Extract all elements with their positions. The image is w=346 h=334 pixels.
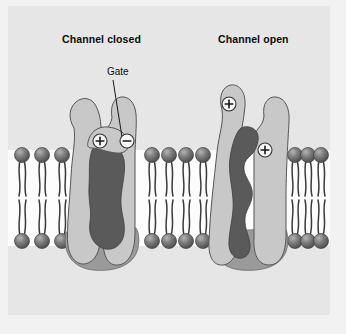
lipid-head	[179, 234, 194, 249]
label-gate: Gate	[107, 66, 129, 77]
lipid-head	[15, 148, 30, 163]
lipid-head	[55, 148, 70, 163]
lipid-head	[196, 234, 211, 249]
positive-charge-open-upper	[222, 97, 236, 111]
open-channel-subunit-right	[254, 97, 289, 265]
lipid-head	[145, 234, 160, 249]
ion-channel-diagram	[0, 0, 346, 334]
lipid-head	[179, 148, 194, 163]
label-channel-open: Channel open	[218, 33, 289, 45]
figure-root: Channel closed Channel open Gate	[0, 0, 346, 334]
lipid-head	[145, 148, 160, 163]
closed-channel[interactable]	[65, 97, 139, 270]
lipid-head	[314, 148, 329, 163]
lipid-head	[15, 234, 30, 249]
positive-charge-open-lower	[258, 143, 272, 157]
lipid-head	[162, 234, 177, 249]
closed-channel-pore	[89, 146, 125, 249]
lipid-head	[162, 148, 177, 163]
lipid-head	[196, 148, 211, 163]
label-channel-closed: Channel closed	[62, 33, 141, 45]
lipid-head	[314, 234, 329, 249]
positive-charge-closed	[93, 134, 107, 148]
lipid-head	[35, 234, 50, 249]
lipid-head	[35, 148, 50, 163]
